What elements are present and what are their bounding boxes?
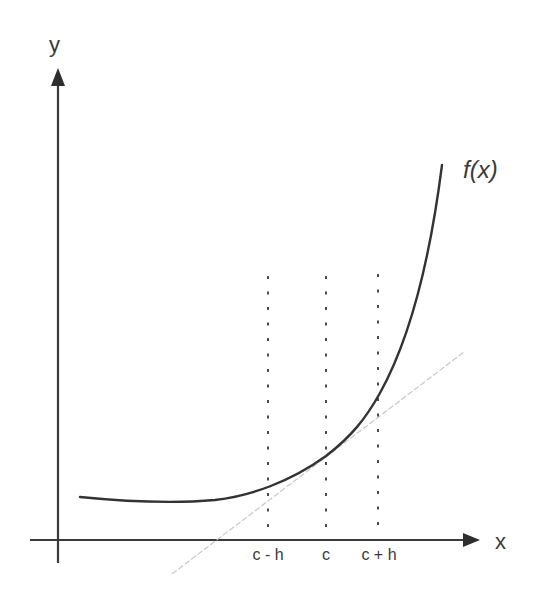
function-label: f(x) [463,156,498,183]
tick-label-c-minus-h: c - h [252,546,283,563]
y-axis [51,68,65,563]
derivative-diagram: y x f(x) c - h c c + h [0,0,533,597]
y-axis-label: y [49,32,60,57]
x-axis-arrow-icon [463,533,480,547]
dashed-guides [268,274,378,536]
x-axis [30,533,480,547]
tick-label-c: c [322,546,330,563]
tick-label-c-plus-h: c + h [361,546,396,563]
function-curve [80,165,442,502]
x-axis-label: x [495,529,506,554]
y-axis-arrow-icon [51,68,65,86]
